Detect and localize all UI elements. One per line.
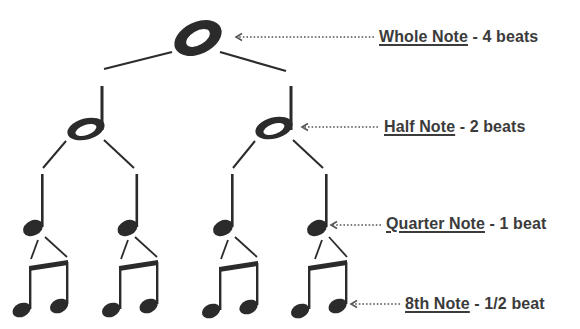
branch-line [233, 141, 255, 168]
label-whole-note: Whole Note - 4 beats [379, 27, 538, 47]
arrow-to-quarter-note [331, 222, 381, 229]
eighth-note-pair-icon [100, 260, 160, 320]
quarter-note-icon [20, 174, 45, 239]
branch-line [104, 140, 134, 168]
label-beats: - 1 beat [485, 215, 546, 232]
label-term: 8th Note [405, 295, 470, 312]
label-beats: - 2 beats [455, 118, 525, 135]
eighth-note-pair-icon [10, 260, 70, 320]
eighth-note-pair-icon [200, 261, 260, 321]
branch-line [329, 237, 347, 257]
note-tree-diagram [0, 0, 580, 329]
arrow-to-whole-note [236, 34, 374, 41]
quarter-note-icon [115, 174, 140, 239]
label-beats: - 4 beats [468, 28, 538, 45]
branch-line [220, 52, 286, 71]
quarter-note-icon [304, 174, 329, 239]
branch-line [293, 140, 323, 168]
branch-line [45, 237, 67, 257]
half-note-icon [253, 86, 295, 143]
label-half-note: Half Note - 2 beats [384, 117, 526, 137]
branch-line [31, 240, 38, 259]
label-beats: - 1/2 beat [470, 295, 545, 312]
arrow-to-half-note [302, 124, 378, 131]
branch-line [315, 240, 322, 259]
quarter-note-icon [210, 174, 235, 239]
half-note-icon [65, 86, 107, 144]
label-eighth-note: 8th Note - 1/2 beat [405, 294, 545, 314]
branch-line [235, 237, 257, 257]
eighth-note-pair-icon [289, 260, 349, 321]
arrow-to-eighth-note [351, 301, 400, 308]
branch-line [104, 52, 172, 69]
branch-line [135, 237, 157, 257]
label-term: Quarter Note [386, 215, 485, 232]
branch-line [43, 141, 66, 168]
branch-line [121, 240, 128, 259]
label-term: Half Note [384, 118, 455, 135]
whole-note-icon [169, 13, 228, 63]
label-term: Whole Note [379, 28, 468, 45]
label-quarter-note: Quarter Note - 1 beat [386, 214, 546, 234]
branch-line [221, 240, 228, 259]
